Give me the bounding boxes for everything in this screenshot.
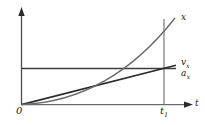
tick-label-t1-subscript: 1: [164, 111, 168, 119]
curve-velocity-vx: [22, 65, 177, 104]
curve-label-position-x: x: [181, 13, 186, 22]
curve-label-acceleration-ax: ax: [181, 69, 190, 80]
tick-label-t1: t1: [160, 106, 168, 119]
axis-label-time: t: [195, 99, 199, 108]
tick-label-origin: 0: [16, 106, 22, 116]
curve-position-x: [22, 18, 176, 105]
plot-canvas: [0, 0, 205, 125]
kinematics-graph-figure: x vx ax t 0 t1: [0, 0, 205, 125]
curve-label-acceleration-subscript: x: [186, 73, 190, 81]
y-axis: [18, 7, 24, 105]
